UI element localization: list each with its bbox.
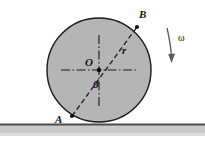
label-center-o: O [85, 57, 93, 68]
label-radius-r: r [122, 45, 126, 56]
ground-band [0, 125, 205, 133]
point-a-marker [70, 114, 74, 118]
physics-diagram-figure: O r θ A B ω [0, 0, 205, 142]
label-angle-theta: θ [93, 79, 99, 90]
ground-band-lower [0, 133, 205, 136]
label-point-b: B [139, 9, 146, 20]
point-b-marker [135, 25, 139, 29]
omega-rotation-arrow [167, 28, 172, 58]
point-o-marker [97, 68, 102, 73]
label-point-a: A [55, 114, 62, 125]
omega-arrowhead-icon [168, 54, 175, 63]
label-angular-velocity-omega: ω [178, 33, 185, 43]
diagram-canvas [0, 0, 205, 142]
